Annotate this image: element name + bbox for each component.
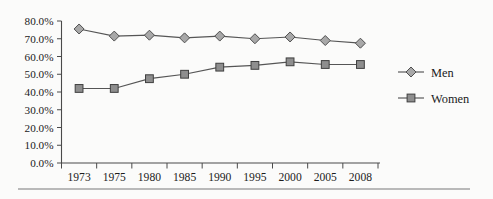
data-point-marker-men bbox=[285, 32, 295, 42]
y-axis-tick-label: 60.0% bbox=[25, 51, 54, 63]
y-axis-tick-label: 30.0% bbox=[25, 104, 54, 116]
chart-figure: 0.0%10.0%20.0%30.0%40.0%50.0%60.0%70.0%8… bbox=[0, 0, 493, 199]
x-axis: 197319751980198519901995200020052008 bbox=[62, 163, 381, 184]
data-point-marker-men bbox=[180, 33, 190, 43]
data-point-marker-women bbox=[146, 75, 154, 83]
data-point-marker-women bbox=[286, 58, 294, 66]
data-point-marker-women bbox=[321, 61, 329, 69]
x-axis-tick-label: 1973 bbox=[67, 171, 90, 184]
data-point-marker-men bbox=[320, 36, 330, 46]
chart-series bbox=[74, 24, 365, 92]
data-point-marker-women bbox=[357, 61, 365, 69]
data-point-marker-women bbox=[251, 61, 259, 69]
y-axis-tick-label: 80.0% bbox=[25, 15, 54, 27]
x-axis-tick-label: 1975 bbox=[103, 171, 126, 184]
data-point-marker-women bbox=[216, 63, 224, 71]
legend-label-men: Men bbox=[431, 66, 454, 80]
y-axis-tick-label: 40.0% bbox=[25, 86, 54, 98]
x-axis-tick-label: 1985 bbox=[173, 171, 196, 184]
x-axis-tick-label: 2005 bbox=[314, 171, 337, 184]
y-axis-tick-label: 10.0% bbox=[25, 139, 54, 151]
legend-marker-men bbox=[406, 67, 416, 77]
y-axis-tick-label: 20.0% bbox=[25, 122, 54, 134]
data-point-marker-women bbox=[75, 85, 83, 93]
legend-marker-women bbox=[407, 94, 415, 102]
bottom-divider-rule bbox=[18, 188, 470, 190]
data-point-marker-men bbox=[215, 31, 225, 41]
y-axis-tick-label: 0.0% bbox=[30, 157, 53, 169]
x-axis-tick-label: 1980 bbox=[138, 171, 161, 184]
y-axis-tick-label: 50.0% bbox=[25, 68, 54, 80]
data-point-marker-men bbox=[109, 31, 119, 41]
chart-legend: MenWomen bbox=[398, 66, 469, 106]
data-point-marker-men bbox=[355, 38, 365, 48]
legend-label-women: Women bbox=[431, 92, 469, 106]
line-chart: 0.0%10.0%20.0%30.0%40.0%50.0%60.0%70.0%8… bbox=[0, 0, 493, 199]
x-axis-tick-label: 1995 bbox=[243, 171, 266, 184]
data-point-marker-women bbox=[110, 85, 118, 93]
data-point-marker-women bbox=[181, 70, 189, 78]
data-point-marker-men bbox=[74, 24, 84, 34]
x-axis-tick-label: 2008 bbox=[349, 171, 372, 184]
y-axis-tick-label: 70.0% bbox=[25, 33, 54, 45]
x-axis-tick-label: 1990 bbox=[208, 171, 231, 184]
y-axis: 0.0%10.0%20.0%30.0%40.0%50.0%60.0%70.0%8… bbox=[25, 15, 62, 169]
data-point-marker-men bbox=[144, 30, 154, 40]
x-axis-tick-label: 2000 bbox=[278, 171, 301, 184]
data-point-marker-men bbox=[250, 34, 260, 44]
